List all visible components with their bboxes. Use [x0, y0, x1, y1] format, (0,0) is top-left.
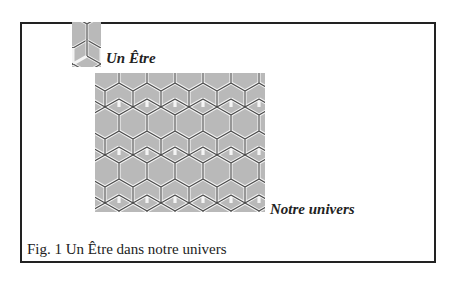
being-hex-patch — [72, 22, 101, 67]
being-label: Un Être — [106, 50, 156, 67]
universe-label: Notre univers — [270, 201, 355, 218]
universe-hex-patch — [95, 73, 265, 212]
figure-caption: Fig. 1 Un Être dans notre univers — [27, 241, 227, 258]
